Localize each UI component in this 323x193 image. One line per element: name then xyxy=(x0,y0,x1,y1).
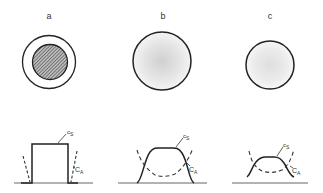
panel-a-circle xyxy=(23,36,76,89)
ca-label-c: CA xyxy=(292,167,301,176)
cs-label-a: cS xyxy=(67,129,74,137)
cs-label-c: cS xyxy=(283,142,290,150)
panel-b-circle xyxy=(133,32,191,90)
panel-b-profile: cS CA xyxy=(137,133,198,183)
cs-label-b: cS xyxy=(183,133,190,141)
diffusion-diagram: a b c cS CA cS CA cS xyxy=(0,0,323,193)
panel-c-profile: cS CA xyxy=(247,142,301,177)
panel-c-circle xyxy=(246,41,294,89)
ca-label-b: CA xyxy=(189,166,198,175)
panel-label-a: a xyxy=(46,11,51,21)
panel-a-profile: cS CA xyxy=(21,129,84,183)
panel-label-b: b xyxy=(160,11,165,21)
ca-label-a: CA xyxy=(75,166,84,175)
panel-label-c: c xyxy=(268,11,273,21)
